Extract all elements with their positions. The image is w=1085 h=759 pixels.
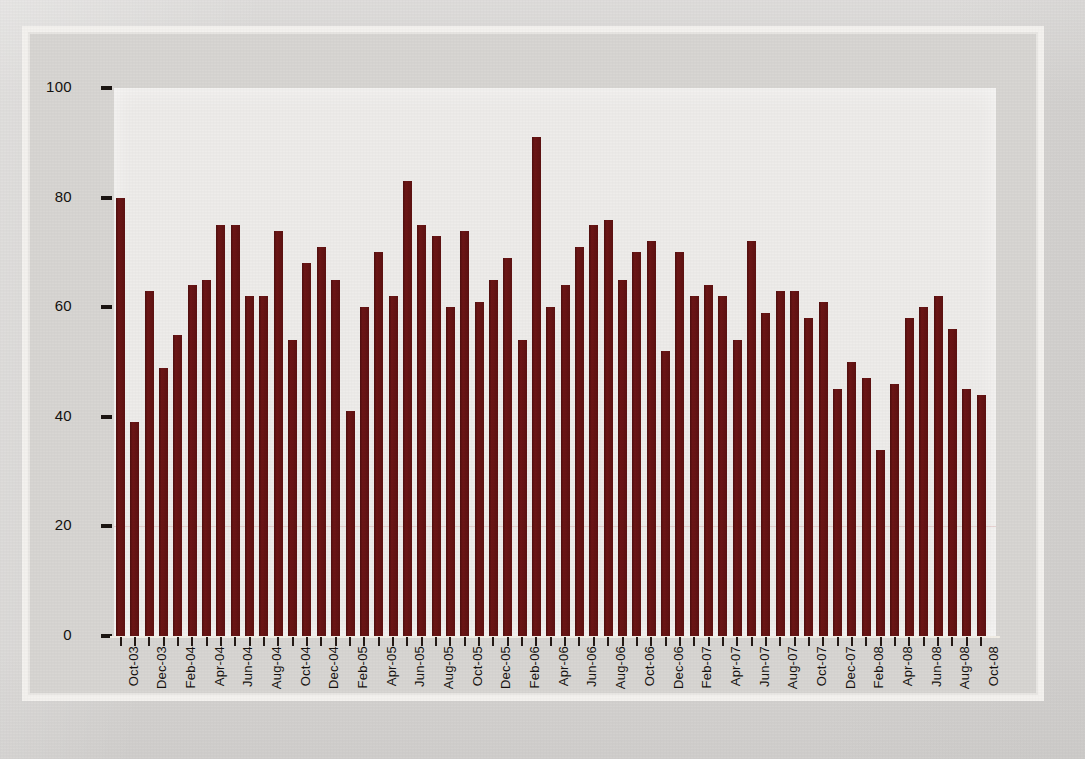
x-tick-mark (349, 637, 351, 646)
x-tick-mark (378, 637, 380, 646)
x-tick-mark (894, 637, 896, 646)
x-tick-mark (908, 637, 910, 646)
bar (690, 296, 699, 636)
x-tick-label: Jun-06 (584, 646, 599, 687)
y-tick-mark (101, 305, 112, 309)
bar (876, 450, 885, 636)
bar (661, 351, 670, 636)
x-tick-mark (736, 637, 738, 646)
x-tick-mark (708, 637, 710, 646)
x-tick-label: Apr-04 (212, 646, 227, 686)
x-tick-label: Feb-05 (355, 646, 370, 688)
x-tick-mark (794, 637, 796, 646)
x-tick-mark (923, 637, 925, 646)
x-tick-mark (335, 637, 337, 646)
bar (130, 422, 139, 636)
bar (518, 340, 527, 636)
x-tick-label: Dec-05 (498, 646, 513, 689)
bar (532, 137, 541, 636)
x-tick-mark (421, 637, 423, 646)
bar (948, 329, 957, 636)
x-tick-mark (693, 637, 695, 646)
x-tick-mark (406, 637, 408, 646)
x-tick-mark (851, 637, 853, 646)
x-tick-mark (980, 637, 982, 646)
bar (489, 280, 498, 636)
bar (475, 302, 484, 636)
x-tick-label: Oct-05 (470, 646, 485, 686)
y-tick-label: 100 (26, 78, 72, 95)
bar (919, 307, 928, 636)
bar (761, 313, 770, 636)
bar (833, 389, 842, 636)
bar (374, 252, 383, 636)
bar (159, 368, 168, 637)
x-tick-mark (607, 637, 609, 646)
bar (503, 258, 512, 636)
bar (389, 296, 398, 636)
x-tick-label: Jun-05 (412, 646, 427, 687)
x-tick-mark (808, 637, 810, 646)
x-tick-label: Jun-07 (757, 646, 772, 687)
x-tick-mark (392, 637, 394, 646)
bar (862, 378, 871, 636)
bar (589, 225, 598, 636)
bar (647, 241, 656, 636)
x-tick-mark (464, 637, 466, 646)
bar (216, 225, 225, 636)
x-tick-mark (564, 637, 566, 646)
y-tick-label: 60 (26, 297, 72, 314)
x-tick-mark (449, 637, 451, 646)
x-tick-label: Apr-07 (728, 646, 743, 686)
y-tick-label: 0 (26, 626, 72, 643)
bar (819, 302, 828, 636)
x-tick-mark (277, 637, 279, 646)
bar (847, 362, 856, 636)
bar (618, 280, 627, 636)
bar (977, 395, 986, 636)
x-tick-label: Oct-04 (298, 646, 313, 686)
x-tick-label: Apr-06 (556, 646, 571, 686)
x-tick-mark (751, 637, 753, 646)
x-tick-mark (206, 637, 208, 646)
bar (804, 318, 813, 636)
x-tick-label: Oct-07 (814, 646, 829, 686)
x-tick-mark (765, 637, 767, 646)
x-tick-mark (478, 637, 480, 646)
bar (360, 307, 369, 636)
x-tick-mark (492, 637, 494, 646)
x-tick-mark (622, 637, 624, 646)
x-tick-mark (665, 637, 667, 646)
bar (346, 411, 355, 636)
bar (202, 280, 211, 636)
bar (245, 296, 254, 636)
x-tick-mark (306, 637, 308, 646)
x-tick-label: Dec-04 (326, 646, 341, 689)
x-tick-label: Apr-08 (900, 646, 915, 686)
bar (962, 389, 971, 636)
y-tick-label: 20 (26, 516, 72, 533)
x-tick-label: Apr-05 (384, 646, 399, 686)
y-tick-mark (101, 196, 112, 200)
scanned-page: 020406080100 Oct-03Dec-03Feb-04Apr-04Jun… (0, 0, 1085, 759)
bar (116, 198, 125, 636)
x-tick-mark (966, 637, 968, 646)
x-tick-mark (951, 637, 953, 646)
bar (733, 340, 742, 636)
x-tick-mark (535, 637, 537, 646)
bar (546, 307, 555, 636)
x-tick-label: Feb-04 (183, 646, 198, 688)
x-tick-label: Aug-04 (269, 646, 284, 689)
bar (145, 291, 154, 636)
x-tick-mark (593, 637, 595, 646)
y-axis: 020406080100 (28, 0, 94, 759)
y-tick-label: 40 (26, 407, 72, 424)
x-tick-label: Aug-06 (613, 646, 628, 689)
x-tick-label: Feb-08 (871, 646, 886, 688)
x-tick-label: Feb-07 (699, 646, 714, 688)
bar (747, 241, 756, 636)
bar (575, 247, 584, 636)
x-tick-label: Jun-04 (240, 646, 255, 687)
x-tick-label: Aug-08 (957, 646, 972, 689)
x-tick-mark (177, 637, 179, 646)
